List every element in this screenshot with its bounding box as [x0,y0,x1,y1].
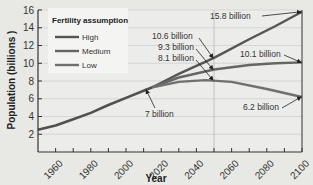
x-tick-label: 2000 [112,157,136,181]
legend-label-low: Low [82,61,97,70]
x-tick-label: 2080 [253,157,277,181]
x-tick-label: 1960 [41,157,65,181]
y-tick-label: 2 [28,129,34,140]
population-chart: 2468101214161960198020002020204020602080… [0,0,313,185]
annotation-label: 8.1 billion [158,53,194,63]
x-axis-title: Year [145,173,166,184]
annotation-label: 10.1 billion [240,49,281,59]
annotation-label: 9.3 billion [158,42,194,52]
annotation-label: 10.6 billion [152,31,193,41]
annotation-label: 7 billion [145,109,174,119]
y-tick-label: 16 [23,5,35,16]
legend-label-medium: Medium [82,47,111,56]
annotation-label: 15.8 billion [210,11,251,21]
y-tick-label: 4 [28,111,34,122]
x-tick-label: 2100 [288,157,312,181]
annotation-label: 6.2 billion [243,102,279,112]
x-tick-label: 2060 [217,157,241,181]
legend: Fertility assumption HighMediumLow [48,8,128,73]
x-tick-label: 2040 [182,157,206,181]
y-tick-label: 12 [23,40,35,51]
y-axis-title: Population (billions ) [6,31,17,130]
y-tick-label: 14 [23,22,35,33]
legend-label-high: High [82,33,98,42]
y-tick-label: 6 [28,93,34,104]
x-tick-label: 1980 [77,157,101,181]
y-tick-label: 8 [28,76,34,87]
y-tick-label: 10 [23,58,35,69]
legend-title: Fertility assumption [52,16,128,25]
